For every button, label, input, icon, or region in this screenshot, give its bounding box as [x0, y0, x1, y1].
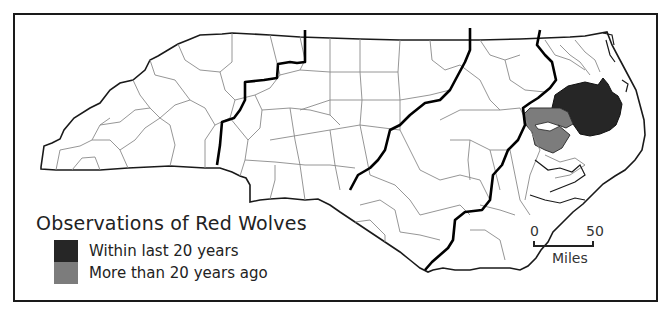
legend: Observations of Red Wolves Within last 2…: [36, 212, 307, 284]
legend-title: Observations of Red Wolves: [36, 212, 307, 234]
legend-label-recent: Within last 20 years: [89, 242, 238, 260]
scale-bar: 0 50 Miles: [530, 220, 630, 280]
scale-start-label: 0: [530, 223, 539, 239]
scale-bar-line: [533, 241, 594, 247]
scale-end-label: 50: [586, 223, 604, 239]
legend-label-historic: More than 20 years ago: [89, 264, 268, 282]
legend-item-historic: More than 20 years ago: [54, 262, 307, 284]
legend-swatch-recent: [54, 240, 78, 262]
legend-swatch-historic: [54, 262, 78, 284]
scale-unit-label: Miles: [552, 250, 588, 266]
legend-item-recent: Within last 20 years: [54, 240, 307, 262]
